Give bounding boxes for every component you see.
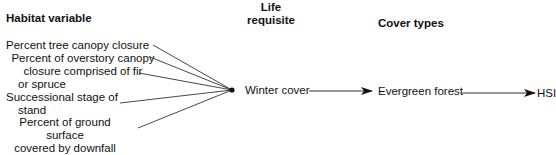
cover-type-evergreen-forest: Evergreen forest	[378, 85, 463, 98]
header-life-requisite-line1: Life	[242, 1, 300, 14]
output-hsi: HSI	[537, 87, 556, 100]
habitat-variable-1: Percent tree canopy closure	[6, 39, 149, 52]
habitat-variable-1-line1: Percent tree canopy closure	[6, 39, 149, 52]
header-life-requisite: Life requisite	[242, 1, 300, 27]
habitat-variable-4-line2: covered by downfall	[3, 142, 127, 155]
habitat-variable-3: Successional stage of stand	[6, 91, 118, 117]
connector-line-1	[153, 45, 232, 90]
habitat-variable-2-line3: or spruce	[4, 78, 162, 91]
habitat-variable-4: Percent of ground surface covered by dow…	[3, 116, 127, 155]
habitat-variable-2-line2: closure comprised of fir	[4, 65, 162, 78]
habitat-variable-2-line1: Percent of overstory canopy	[4, 52, 162, 65]
habitat-variable-4-line1: Percent of ground surface	[3, 116, 127, 142]
life-requisite-winter-cover: Winter cover	[245, 84, 310, 97]
connector-line-2	[150, 57, 232, 90]
habitat-variable-2: Percent of overstory canopy closure comp…	[4, 52, 162, 91]
header-life-requisite-line2: requisite	[242, 14, 300, 27]
header-cover-types: Cover types	[378, 17, 444, 30]
habitat-variable-3-line1: Successional stage of	[6, 91, 118, 104]
junction-dot	[229, 87, 234, 92]
header-habitat-variable: Habitat variable	[6, 12, 92, 25]
